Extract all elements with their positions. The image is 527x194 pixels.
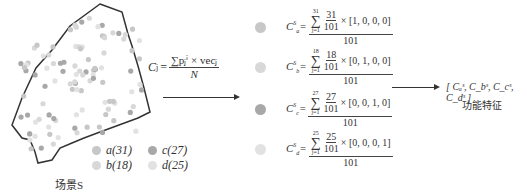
aggregation-formula: Cj = ∑pⱼⁱ × vecⱼN (148, 54, 219, 80)
legend-dot-icon (92, 146, 101, 155)
feature-label: 功能特征 (462, 97, 502, 112)
arrow-right-icon (392, 87, 438, 88)
legend-a: a(31) (92, 143, 132, 158)
legend-b: b(18) (92, 158, 132, 173)
legend-dot-icon (148, 146, 157, 155)
category-dot-icon (255, 22, 266, 33)
diagram-canvas: a(31) b(18) c(27) d(25) 场景S Cj = ∑pⱼⁱ × … (0, 0, 527, 194)
formula-row-c: CSc= 27∑j=127101× [0, 0, 1, 0]101 (255, 90, 392, 128)
category-dot-icon (255, 62, 266, 73)
legend-dot-icon (92, 161, 101, 170)
legend-c: c(27) (148, 143, 187, 158)
scene-label: 场景S (55, 176, 83, 192)
formula-row-d: CSd= 25∑j=125101× [0, 0, 0, 1]101 (255, 130, 393, 168)
legend-d: d(25) (148, 158, 188, 173)
scene-dots (18, 16, 144, 152)
legend-dot-icon (148, 161, 157, 170)
category-dot-icon (255, 144, 266, 155)
category-dot-icon (255, 104, 266, 115)
arrow-right-icon (163, 97, 238, 98)
formula-row-b: CSb= 18∑j=118101× [0, 1, 0, 0]101 (255, 48, 393, 86)
formula-row-a: CSa= 31∑j=131101× [1, 0, 0, 0]101 (255, 8, 393, 46)
